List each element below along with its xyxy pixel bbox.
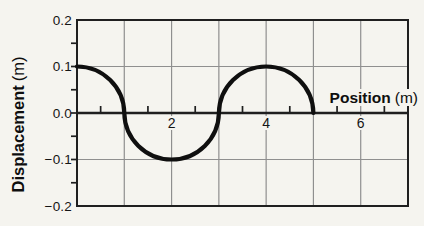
wave-figure: Displacement(m) Position(m) 0.20.10.0−0.… — [0, 0, 424, 226]
plot-svg — [0, 0, 424, 226]
